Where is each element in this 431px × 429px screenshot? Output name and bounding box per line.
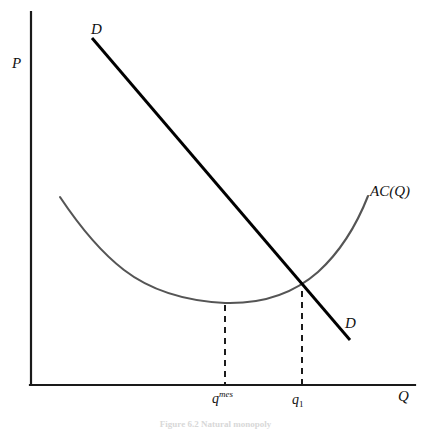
tick-q1-base: q <box>292 392 299 407</box>
tick-qmes-base: q <box>212 391 219 406</box>
tick-label-q1: q1 <box>292 393 304 407</box>
demand-curve-label-bottom: D <box>345 316 356 331</box>
demand-curve-label-top: D <box>91 22 102 37</box>
x-axis-label: Q <box>398 389 409 404</box>
demand-curve <box>92 38 350 340</box>
average-cost-curve-label: AC(Q) <box>370 184 410 199</box>
tick-q1-subscript: 1 <box>299 399 304 409</box>
tick-label-qmes: qmes <box>212 392 233 406</box>
figure-caption: Figure 6.2 Natural monopoly <box>0 419 431 429</box>
chart-canvas <box>0 0 431 429</box>
natural-monopoly-figure: P Q D D AC(Q) qmes q1 Figure 6.2 Natural… <box>0 0 431 429</box>
average-cost-curve <box>60 196 368 303</box>
y-axis-label: P <box>12 56 21 71</box>
tick-qmes-superscript: mes <box>219 389 233 399</box>
